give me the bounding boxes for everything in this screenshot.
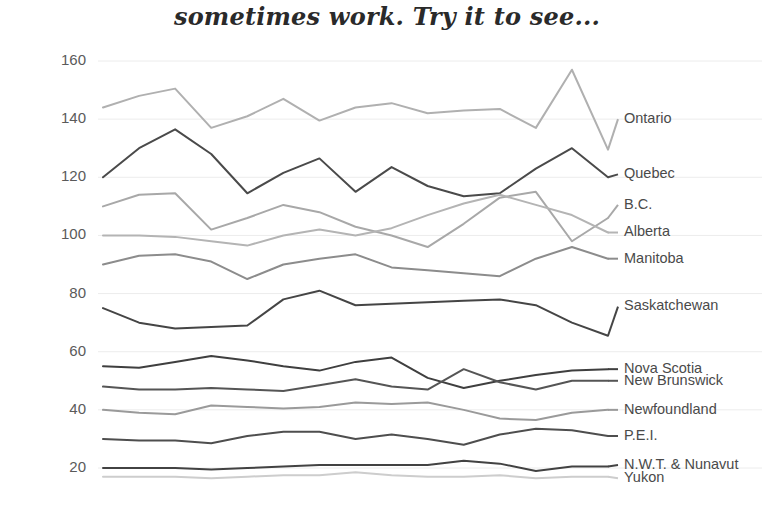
series-line-n-w-t-nunavut — [103, 461, 608, 471]
series-label-ontario: Ontario — [624, 110, 672, 126]
y-axis-tick-label: 100 — [61, 225, 86, 242]
series-line-p-e-i — [103, 429, 608, 445]
series-label-connector — [608, 477, 618, 478]
series-line-newfoundland — [103, 403, 608, 420]
series-lines — [103, 70, 608, 478]
series-label-connector — [608, 465, 618, 466]
series-label-new-brunswick: New Brunswick — [624, 372, 724, 388]
y-axis-tick-label: 60 — [69, 342, 86, 359]
y-axis-tick-labels: 16014012010080604020 — [61, 51, 86, 475]
series-label-newfoundland: Newfoundland — [624, 401, 717, 417]
y-axis-tick-label: 20 — [69, 458, 86, 475]
series-label-b-c: B.C. — [624, 196, 652, 212]
y-axis-tick-label: 120 — [61, 167, 86, 184]
series-line-alberta — [103, 195, 608, 246]
chart-plot-area: 16014012010080604020 OntarioQuebecB.C.Al… — [0, 0, 774, 508]
series-label-alberta: Alberta — [624, 223, 671, 239]
series-line-yukon — [103, 472, 608, 478]
series-labels: OntarioQuebecB.C.AlbertaManitobaSaskatch… — [608, 110, 738, 485]
series-label-yukon: Yukon — [624, 469, 664, 485]
line-chart: sometimes work. Try it to see... 1601401… — [0, 0, 774, 508]
series-label-quebec: Quebec — [624, 165, 675, 181]
y-axis-tick-label: 80 — [69, 284, 86, 301]
series-label-p-e-i: P.E.I. — [624, 427, 658, 443]
series-label-connector — [608, 205, 618, 218]
series-line-saskatchewan — [103, 291, 608, 336]
series-line-quebec — [103, 129, 608, 196]
series-label-manitoba: Manitoba — [624, 250, 685, 266]
y-axis-tick-label: 160 — [61, 51, 86, 68]
series-line-nova-scotia — [103, 356, 608, 388]
series-label-connector — [608, 307, 618, 336]
series-label-saskatchewan: Saskatchewan — [624, 297, 718, 313]
y-axis-tick-label: 40 — [69, 400, 86, 417]
series-line-b-c — [103, 192, 608, 247]
series-label-connector — [608, 119, 618, 150]
y-axis-tick-label: 140 — [61, 109, 86, 126]
series-line-ontario — [103, 70, 608, 150]
series-line-manitoba — [103, 247, 608, 279]
series-line-new-brunswick — [103, 369, 608, 391]
